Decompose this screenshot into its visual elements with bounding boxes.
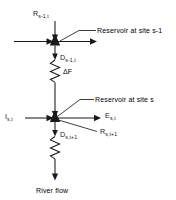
label-evaporation: Es,t bbox=[105, 111, 116, 121]
label-delta-f: ΔF bbox=[63, 67, 73, 76]
note-reservoir-site-s: Reservoir at site s bbox=[95, 96, 154, 103]
label-storage-next: Rs,t+1 bbox=[100, 127, 117, 137]
label-diversion-lower: Ds,t+1 bbox=[60, 130, 77, 140]
diversion-upper-arrow bbox=[52, 46, 58, 61]
reservoir-node-upper bbox=[50, 34, 60, 46]
note-reservoir-site-s-minus-1: Reservoir at site s-1 bbox=[97, 27, 162, 34]
schematic-canvas: Rs-1,t Reservoir at site s-1 Ds-1,t ΔF R… bbox=[0, 0, 176, 200]
river-flow-arrow bbox=[52, 159, 58, 181]
label-river-flow: River flow bbox=[36, 187, 69, 194]
reservoir-network-diagram: Rs-1,t Reservoir at site s-1 Ds-1,t ΔF R… bbox=[0, 0, 176, 200]
diversion-lower-arrow bbox=[52, 122, 58, 137]
label-release-upper: Rs-1,t bbox=[33, 9, 49, 19]
reach-zigzag-lower bbox=[50, 137, 59, 159]
lower-left-inflow-arrow bbox=[25, 115, 54, 121]
label-inflow: Is,t bbox=[5, 112, 13, 122]
label-diversion-upper: Ds-1,t bbox=[60, 53, 76, 63]
reach-zigzag-upper bbox=[50, 60, 59, 82]
lower-right-evaporation-arrow bbox=[57, 115, 101, 121]
leader-line-lower-note bbox=[58, 100, 94, 117]
upper-left-inflow-arrow bbox=[14, 38, 54, 44]
